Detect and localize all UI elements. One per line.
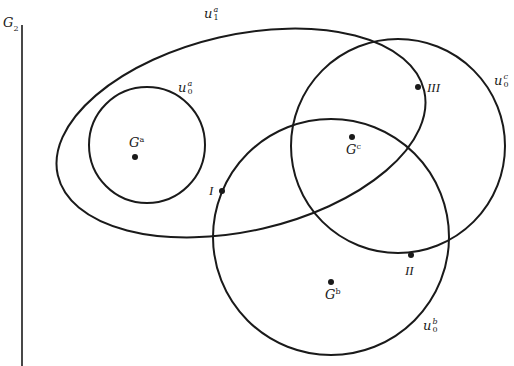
label-u0b-scripts: b0 [432,318,437,334]
label-u0b-sub: 0 [432,326,437,334]
label-gb-sup: b [335,287,340,296]
label-gc-sup: c [356,142,360,151]
label-point-i: I [209,184,213,197]
label-u0b-base: u [423,318,431,333]
label-g2-base: G [3,15,13,30]
label-g2: G2 [3,16,18,33]
label-u1a-base: u [204,6,212,21]
point-gc [349,134,355,140]
label-gc: Gc [346,143,361,156]
region-u0a [89,87,205,203]
label-gb: Gb [325,288,341,301]
region-u0b [213,119,449,355]
region-u0c [291,39,505,253]
label-u0a-scripts: a0 [187,80,192,96]
label-gc-base: G [346,142,356,157]
point-i [219,188,225,194]
point-gb [328,279,334,285]
label-ga-sup: a [139,135,144,144]
label-point-ii: II [405,264,414,277]
label-u0a: ua0 [178,80,192,96]
label-u0c-scripts: c0 [503,73,508,89]
label-u0a-base: u [178,80,186,95]
diagram-geometry [0,0,514,366]
label-point-iii: III [427,81,440,94]
label-u0a-sub: 0 [187,88,192,96]
label-u0c-base: u [494,73,502,88]
label-u1a-sub: 1 [213,14,218,22]
label-gb-base: G [325,287,335,302]
label-u0c: uc0 [494,73,508,89]
point-iii [415,84,421,90]
label-ga: Ga [129,136,144,149]
label-ga-base: G [129,135,139,150]
label-g2-sub: 2 [13,24,18,33]
diagram-canvas: G2 ua1 ua0 uc0 ub0 Ga Gc Gb I II III [0,0,514,366]
point-ii [408,252,414,258]
label-u1a-scripts: a1 [213,6,218,22]
label-u0b: ub0 [423,318,438,334]
label-u0c-sub: 0 [503,81,508,89]
point-ga [132,154,138,160]
label-u1a: ua1 [204,6,218,22]
